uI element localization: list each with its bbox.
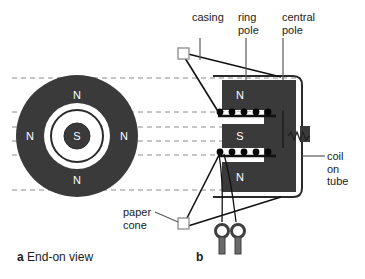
- pole-letter-n-right: N: [120, 130, 128, 142]
- pole-letter-n-lower: N: [236, 171, 244, 183]
- caption-a: a End-on view: [17, 250, 93, 264]
- label-casing: casing: [192, 11, 224, 24]
- label-paper-cone: paper cone: [123, 206, 151, 231]
- terminal-ring: [216, 225, 229, 238]
- caption-b-letter: b: [196, 250, 203, 264]
- pole-letter-n-bottom: N: [73, 174, 81, 186]
- terminal-tag: [232, 225, 245, 255]
- terminals: [216, 225, 245, 255]
- label-coil-on-tube: coil on tube: [327, 150, 348, 188]
- ring-pole-top: [222, 80, 274, 110]
- coil-dot: [253, 149, 260, 156]
- cone-anchor-square-top: [178, 48, 189, 59]
- terminal-stem: [219, 237, 225, 254]
- pole-letter-n-left: N: [26, 130, 34, 142]
- coil-dot: [265, 109, 272, 116]
- coil-dot: [241, 109, 248, 116]
- pole-letter-n-top: N: [73, 89, 81, 101]
- cone-upper-edge: [185, 58, 219, 113]
- cone-upper-top: [188, 54, 281, 77]
- coil-dot: [265, 149, 272, 156]
- cone-anchor-square-bottom: [178, 218, 189, 229]
- connector-block: [300, 126, 310, 142]
- coil-dot: [241, 149, 248, 156]
- pole-letter-s-center: S: [73, 130, 80, 142]
- leader-paper-cone: [155, 212, 178, 222]
- loudspeaker-diagram: N N N N S N S N: [0, 0, 365, 279]
- coil-dot: [229, 149, 236, 156]
- caption-a-text: End-on view: [27, 250, 93, 264]
- terminal-ring: [232, 225, 245, 238]
- terminal-stem: [235, 237, 241, 254]
- pole-letter-s-middle: S: [236, 130, 243, 142]
- caption-b: b: [196, 250, 203, 264]
- terminal-tag: [216, 225, 229, 255]
- lead-wire: [219, 154, 222, 222]
- cone-lower-edge: [185, 155, 219, 222]
- coil-dot: [253, 109, 260, 116]
- label-central-pole: central pole: [282, 11, 315, 36]
- pole-letter-n-upper: N: [236, 89, 244, 101]
- label-ring-pole: ring pole: [238, 11, 259, 36]
- magnet-body: [222, 80, 296, 192]
- coil-dot: [217, 149, 224, 156]
- caption-a-letter: a: [17, 250, 24, 264]
- coil-dot: [229, 109, 236, 116]
